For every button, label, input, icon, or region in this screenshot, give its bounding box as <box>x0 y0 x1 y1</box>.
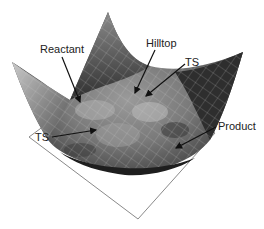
svg-text:TS: TS <box>185 56 199 68</box>
svg-text:Hilltop: Hilltop <box>146 37 177 49</box>
svg-text:Product: Product <box>218 120 256 132</box>
svg-text:Reactant: Reactant <box>40 43 84 55</box>
potential-energy-surface-diagram: Reactant Hilltop TS TS Product <box>0 0 264 229</box>
svg-text:TS: TS <box>35 131 49 143</box>
